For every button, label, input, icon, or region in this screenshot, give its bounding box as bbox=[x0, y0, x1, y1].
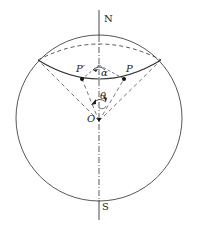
latitude-circle-front bbox=[38, 60, 161, 79]
point-p-dot bbox=[122, 77, 126, 81]
label-point-p: P bbox=[125, 63, 133, 74]
label-theta: θ bbox=[100, 90, 106, 101]
label-center-o: O bbox=[87, 113, 95, 124]
label-north: N bbox=[104, 13, 113, 24]
theta-arrow-left-icon bbox=[91, 99, 96, 105]
label-alpha: α bbox=[101, 67, 108, 78]
label-south: S bbox=[102, 201, 109, 212]
radius-left-edge bbox=[38, 60, 99, 121]
sphere-diagram: N S O P P′ α θ bbox=[0, 0, 197, 226]
label-point-p-prime: P′ bbox=[75, 63, 86, 74]
point-p-prime-dot bbox=[80, 77, 84, 81]
theta-angle-arc-lower bbox=[99, 106, 106, 109]
